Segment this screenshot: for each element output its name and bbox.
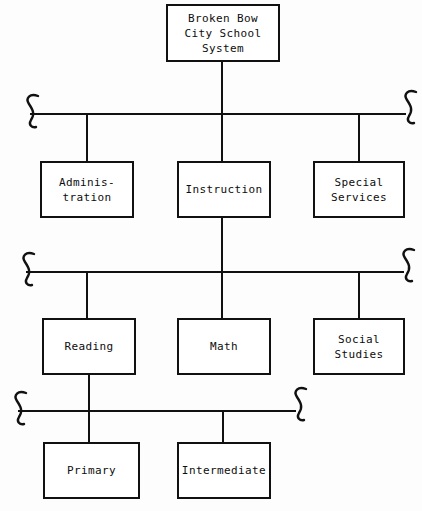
line-break-squiggle-right-level4 (290, 387, 312, 427)
node-special-services: Special Services (313, 161, 405, 218)
node-reading: Reading (42, 318, 136, 375)
line-break-squiggle-right-level3 (398, 248, 420, 288)
connector-reading-to-primary (88, 375, 90, 442)
node-instruction: Instruction (177, 161, 271, 218)
node-social-studies: Social Studies (313, 318, 405, 375)
line-break-squiggle-right-level2 (400, 90, 422, 130)
node-primary: Primary (43, 442, 140, 499)
connector-bus4-to-intermediate (222, 410, 224, 442)
connector-bus3-to-social-studies (358, 271, 360, 321)
bus-line-level3 (26, 271, 404, 273)
node-math: Math (177, 318, 271, 375)
line-break-squiggle-left-level2 (22, 92, 44, 132)
node-administration: Adminis- tration (40, 161, 134, 218)
connector-bus3-to-reading (86, 271, 88, 321)
line-break-squiggle-left-level4 (10, 389, 32, 429)
node-broken-bow-city-school-system: Broken Bow City School System (166, 4, 280, 62)
connector-bus2-to-administration (86, 113, 88, 161)
org-chart-diagram: Broken Bow City School System Adminis- t… (0, 0, 422, 511)
connector-instruction-to-math (221, 218, 223, 321)
bus-line-level4 (18, 410, 296, 412)
line-break-squiggle-left-level3 (18, 250, 40, 290)
node-intermediate: Intermediate (177, 442, 271, 499)
connector-bus2-to-special-services (358, 113, 360, 161)
